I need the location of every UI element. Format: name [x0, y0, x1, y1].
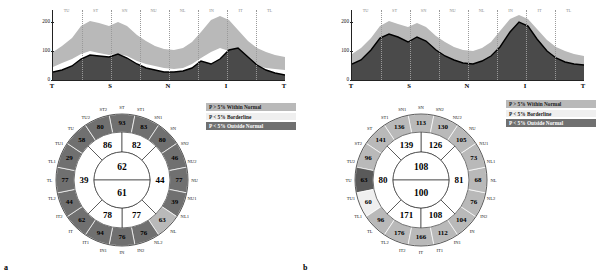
dial-sector-label-IT2: IT2	[399, 248, 406, 253]
dial-outer-value: 76	[470, 198, 478, 206]
legend-outside-normal-b: P < 5% Outside Normal	[505, 118, 597, 128]
dial-sector-label-NU: NU	[191, 178, 198, 183]
dial-outer-value: 63	[159, 216, 167, 224]
sector-divider	[169, 10, 170, 80]
dial-outer-value: 76	[140, 229, 148, 237]
dial-sector-label-NU2: NU2	[453, 115, 463, 120]
plot-area-a	[52, 10, 285, 81]
clock-hour-dial-b: 1131361419663609617616611210476687310513…	[341, 100, 501, 260]
dial-middle-value: 126	[429, 140, 443, 150]
plot-area-b	[351, 10, 584, 81]
dial-outer-value: 141	[375, 136, 386, 144]
dial-sector-label-NL: NL	[490, 178, 496, 183]
x-axis-label-T-4: T	[282, 82, 286, 89]
x-axis-labels-a: TSNIT	[52, 82, 284, 92]
dial-middle-value: 82	[132, 140, 142, 150]
tsnit-chart-a: TUSTSNNUNLINITTL 0100200 TSNIT	[22, 8, 288, 96]
dial-outer-value: 73	[470, 154, 478, 162]
sector-divider	[381, 10, 382, 80]
dial-outer-value: 176	[394, 229, 405, 237]
y-tick-mark	[350, 80, 353, 81]
sector-divider	[198, 10, 199, 80]
x-axis-label-T-4: T	[581, 82, 585, 89]
dial-outer-value: 136	[394, 123, 405, 131]
dial-sector-label-ST: ST	[367, 126, 373, 131]
dial-outer-value: 80	[159, 136, 167, 144]
legend-b: P > 5% Within Normal P < 5% Borderline P…	[505, 99, 597, 128]
dial-sector-label-NL1: NL1	[181, 214, 190, 219]
dial-sector-label-NL2: NL2	[154, 240, 163, 245]
dial-outer-value: 83	[140, 123, 148, 131]
dial-sector-label-TU2: TU2	[82, 115, 91, 120]
dial-sector-label-ST2: ST2	[354, 141, 362, 146]
dial-sector-label-IT2: IT2	[56, 214, 63, 219]
dial-sector-label-TL1: TL1	[354, 214, 363, 219]
dial-outer-value: 29	[66, 154, 74, 162]
sector-divider	[526, 10, 527, 80]
dial-sector-label-SN: SN	[418, 105, 425, 110]
dial-sector-label-TU1: TU1	[55, 141, 64, 146]
dial-middle-value: 39	[80, 175, 90, 185]
dial-inner-inferior-value: 100	[414, 188, 429, 198]
dial-sector-label-IT: IT	[419, 250, 424, 255]
dial-sector-label-NU2: NU2	[188, 159, 198, 164]
dial-outer-value: 62	[78, 216, 86, 224]
dial-sector-label-ST: ST	[119, 105, 125, 110]
dial-middle-value: 108	[429, 210, 443, 220]
dial-sector-label-SN1: SN1	[154, 115, 163, 120]
dial-sector-label-TU2: TU2	[347, 159, 356, 164]
dial-sector-label-NL2: NL2	[487, 196, 496, 201]
dial-sector-label-TU: TU	[68, 126, 75, 131]
x-axis-label-I-3: I	[524, 82, 527, 89]
dial-sector-label-IN: IN	[470, 229, 476, 234]
sector-divider	[555, 10, 556, 80]
dial-inner-inferior-value: 61	[117, 188, 127, 198]
dial-outer-value: 39	[171, 198, 179, 206]
dial-outer-value: 112	[438, 229, 449, 237]
dial-svg-b: 1131361419663609617616611210476687310513…	[341, 100, 501, 260]
dial-sector-label-TL: TL	[367, 229, 373, 234]
dial-outer-value: 93	[119, 119, 127, 127]
tsnit-chart-b: TUSTSNNUNLINITTL 0100200 TSNIT	[321, 8, 587, 96]
dial-outer-value: 96	[377, 216, 385, 224]
x-axis-label-S-1: S	[407, 82, 411, 89]
dial-outer-value: 77	[176, 176, 184, 184]
dial-sector-label-NU1: NU1	[188, 196, 198, 201]
dial-middle-value: 81	[455, 175, 465, 185]
dial-sector-label-ST1: ST1	[137, 107, 145, 112]
legend-a: P > 5% Within Normal P < 5% Borderline P…	[205, 102, 297, 131]
dial-outer-value: 63	[361, 176, 369, 184]
x-axis-labels-b: TSNIT	[351, 82, 583, 92]
y-tick-mark	[350, 22, 353, 23]
dial-outer-value: 105	[456, 136, 467, 144]
legend-within-normal-b: P > 5% Within Normal	[505, 99, 597, 109]
x-axis-label-I-3: I	[225, 82, 228, 89]
x-axis-label-N-2: N	[166, 82, 171, 89]
dial-sector-label-NL: NL	[170, 229, 176, 234]
y-tick-mark	[51, 80, 54, 81]
panel-a-right-eye: TUSTSNNUNLINITTL 0100200 TSNIT P > 5% Wi…	[0, 0, 299, 273]
dial-sector-label-ST2: ST2	[99, 107, 107, 112]
dial-sector-label-IN1: IN1	[454, 240, 462, 245]
dial-outer-value: 113	[416, 119, 427, 127]
dial-sector-label-TL1: TL1	[48, 159, 57, 164]
y-tick-200: 200	[22, 19, 50, 24]
sector-divider	[468, 10, 469, 80]
dial-sector-label-IN2: IN2	[480, 214, 488, 219]
dial-sector-label-IN: IN	[120, 250, 126, 255]
legend-within-normal-a: P > 5% Within Normal	[205, 102, 297, 112]
sector-divider	[410, 10, 411, 80]
y-tick-0: 0	[22, 77, 50, 82]
dial-sector-label-NU1: NU1	[479, 141, 489, 146]
dial-middle-value: 171	[400, 210, 414, 220]
dial-sector-label-IT1: IT1	[436, 248, 443, 253]
x-axis-label-T-0: T	[349, 82, 353, 89]
y-tick-100: 100	[22, 48, 50, 53]
y-tick-mark	[51, 22, 54, 23]
dial-svg-a: 9383804677396376769462447729588086824477…	[42, 100, 202, 260]
dial-outer-value: 60	[365, 198, 373, 206]
y-tick-200: 200	[321, 19, 349, 24]
dial-outer-value: 76	[119, 233, 127, 241]
dial-sector-label-IT1: IT1	[82, 240, 89, 245]
dial-sector-label-SN1: SN1	[398, 107, 407, 112]
